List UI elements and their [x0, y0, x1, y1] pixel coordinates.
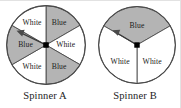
spinner-b-pivot	[134, 42, 139, 47]
spinner-b-label-blue-top: Blue	[130, 21, 145, 30]
spinner-b: Blue White White Spinner B	[90, 1, 180, 108]
spinner-a-label-blue-left: Blue	[18, 40, 33, 49]
spinner-b-label-white-left: White	[111, 57, 131, 66]
spinner-b-label-white-right: White	[143, 57, 163, 66]
spinner-a-label-white-right: White	[56, 40, 76, 49]
spinner-a-caption: Spinner A	[0, 90, 90, 101]
spinner-a-diagram: Blue White Blue White Blue White	[5, 4, 87, 86]
spinner-a-pivot	[43, 42, 49, 48]
spinner-a-label-blue-bottom-right: Blue	[52, 62, 67, 71]
spinner-b-caption: Spinner B	[90, 90, 180, 101]
spinner-a-label-white-bottom-left: White	[23, 62, 43, 71]
spinner-a-label-blue-top-right: Blue	[52, 18, 67, 27]
spinner-a-label-white-top-left: White	[23, 18, 43, 27]
spinner-a: Blue White Blue White Blue White Spinner…	[0, 1, 90, 108]
spinners-figure: Blue White Blue White Blue White Spinner…	[0, 0, 181, 108]
spinner-b-diagram: Blue White White	[97, 5, 177, 85]
